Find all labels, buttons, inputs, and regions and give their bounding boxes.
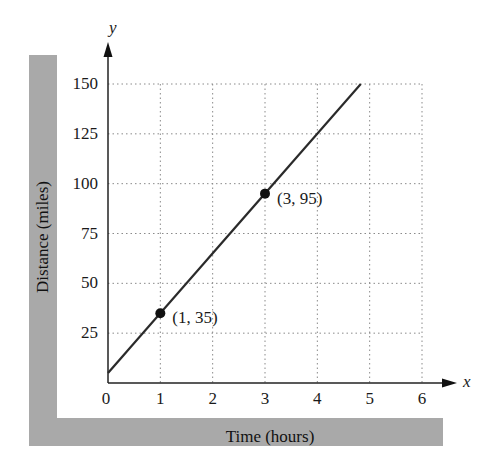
y-axis-variable: y bbox=[109, 18, 117, 38]
data-series bbox=[108, 84, 361, 373]
y-tick-label: 50 bbox=[81, 273, 98, 293]
data-point-label: (1, 35) bbox=[172, 308, 217, 328]
x-tick-label: 1 bbox=[156, 389, 165, 409]
y-tick-label: 100 bbox=[73, 174, 99, 194]
data-point-marker bbox=[260, 189, 270, 199]
grid-lines bbox=[108, 84, 422, 383]
x-axis-arrow-icon bbox=[442, 379, 457, 388]
y-axis-arrow-icon bbox=[104, 42, 113, 57]
series-line bbox=[108, 84, 361, 373]
axes bbox=[104, 42, 458, 388]
data-point-label: (3, 95) bbox=[277, 189, 322, 209]
y-tick-label: 125 bbox=[73, 124, 99, 144]
data-point-marker bbox=[155, 308, 165, 318]
x-tick-label: 3 bbox=[261, 389, 270, 409]
x-tick-label: 2 bbox=[208, 389, 217, 409]
x-tick-label: 0 bbox=[102, 389, 111, 409]
y-tick-label: 75 bbox=[81, 224, 98, 244]
x-tick-label: 4 bbox=[313, 389, 322, 409]
y-tick-label: 25 bbox=[81, 323, 98, 343]
x-tick-label: 5 bbox=[365, 389, 374, 409]
x-axis-variable: x bbox=[463, 372, 471, 392]
x-tick-label: 6 bbox=[418, 389, 427, 409]
y-tick-label: 150 bbox=[73, 74, 99, 94]
